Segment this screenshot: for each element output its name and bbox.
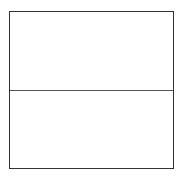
top-section [10, 12, 173, 90]
split-box [9, 11, 174, 169]
bottom-section [10, 91, 173, 168]
